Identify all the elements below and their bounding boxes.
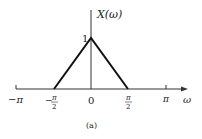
tick-label-half-num: π: [125, 94, 131, 102]
tick-label-pi: π: [162, 94, 170, 104]
tick-label-neg-half-den: 2: [52, 103, 56, 111]
figure-caption: (a): [86, 121, 97, 130]
peak-label: 1: [82, 33, 88, 44]
triangle-spectrum-plot: X(ω) 1 −π − π 2 0 π 2 π ω (a): [0, 0, 202, 139]
tick-label-neg-pi: −π: [8, 94, 23, 105]
tick-label-neg-half-num: π: [51, 94, 57, 102]
x-axis-label: ω: [183, 94, 191, 105]
tick-label-half-den: 2: [126, 103, 130, 111]
x-axis-arrow-icon: [181, 87, 188, 92]
tick-label-zero: 0: [88, 95, 94, 106]
y-axis-label: X(ω): [96, 8, 122, 21]
